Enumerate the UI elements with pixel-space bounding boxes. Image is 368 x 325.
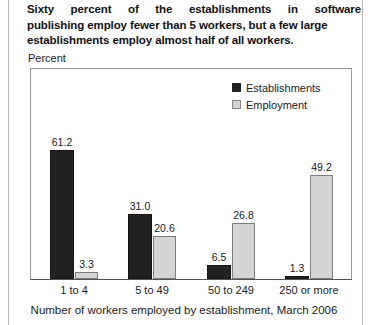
bar-employment-50-to-249[interactable] (232, 223, 255, 279)
x-axis-baseline (30, 279, 352, 280)
chart-title-line-2: publishing employ fewer than 5 workers, … (27, 18, 361, 34)
page-border-left (8, 0, 9, 325)
chart-page: Sixty percent of the establishments in s… (0, 0, 368, 325)
legend-swatch-establishments (232, 83, 241, 92)
bar-establishments-1-to-4[interactable] (50, 150, 74, 279)
legend-label-employment: Employment (246, 99, 307, 111)
x-tick-label-50-to-249: 50 to 249 (186, 284, 276, 296)
bar-employment-1-to-4[interactable] (75, 272, 98, 279)
legend-item-establishments[interactable]: Establishments (232, 80, 350, 95)
y-axis-label: Percent (28, 52, 66, 64)
chart-title: Sixty percent of the establishments in s… (27, 2, 361, 49)
chart-title-line-3: establishments employ almost half of all… (27, 33, 361, 49)
legend: Establishments Employment (232, 80, 350, 114)
legend-item-employment[interactable]: Employment (232, 97, 350, 112)
x-tick-label-5-to-49: 5 to 49 (107, 284, 197, 296)
bar-establishments-50-to-249[interactable] (207, 265, 231, 279)
x-tick-label-250-or-more: 250 or more (264, 284, 354, 296)
page-border-right (362, 0, 363, 325)
legend-swatch-employment (232, 100, 241, 109)
bar-establishments-250-or-more[interactable] (285, 276, 309, 279)
bar-employment-250-or-more[interactable] (310, 175, 333, 279)
legend-label-establishments: Establishments (246, 82, 321, 94)
bar-establishments-5-to-49[interactable] (128, 214, 152, 279)
x-axis-title: Number of workers employed by establishm… (0, 304, 368, 316)
bar-employment-5-to-49[interactable] (153, 236, 176, 279)
x-tick-label-1-to-4: 1 to 4 (29, 284, 119, 296)
chart-title-line-1: Sixty percent of the establishments in s… (27, 2, 361, 18)
